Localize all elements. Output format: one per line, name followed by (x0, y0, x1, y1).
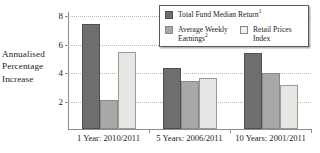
category-labels: 1 Year: 2010/20115 Years: 2006/201110 Ye… (68, 133, 311, 149)
chart-legend: Total Fund Median Return1 Average Weekly… (159, 5, 309, 47)
y-tick-label-8: 8 (59, 11, 64, 21)
y-tick-mark-8 (65, 16, 68, 17)
x-tick-mark (311, 129, 312, 133)
legend-swatch-total-fund-median-return (165, 11, 173, 19)
bar (100, 100, 118, 129)
x-axis-category-label: 1 Year: 2010/2011 (77, 133, 140, 143)
bar (262, 73, 280, 129)
legend-swatch-average-weekly-earnings (165, 26, 173, 34)
legend-label-total-fund-median-return: Total Fund Median Return1 (178, 10, 261, 19)
bar (163, 68, 181, 129)
legend-item-average-weekly-earnings[interactable]: Average Weekly Earnings2 (165, 25, 228, 43)
y-axis-caption-line-1: Annualised (2, 48, 56, 60)
y-tick-label-4: 4 (59, 68, 64, 78)
y-tick-mark-6 (65, 45, 68, 46)
legend-label-retail-prices-index: Retail Prices Index (253, 25, 292, 43)
y-axis-caption: Annualised Percentage Increase (2, 48, 56, 85)
y-axis-caption-line-2: Percentage (2, 60, 56, 72)
legend-swatch-retail-prices-index (240, 26, 248, 34)
bar (181, 81, 199, 129)
y-axis-caption-line-3: Increase (2, 73, 56, 85)
x-axis-category-label: 5 Years: 2006/2011 (156, 133, 222, 143)
y-tick-mark-2 (65, 102, 68, 103)
y-tick-mark-4 (65, 73, 68, 74)
bar (199, 78, 217, 129)
legend-item-total-fund-median-return[interactable]: Total Fund Median Return1 (165, 10, 261, 19)
legend-label-average-weekly-earnings: Average Weekly Earnings2 (178, 25, 228, 43)
bar (82, 24, 100, 129)
y-tick-label-2: 2 (59, 97, 64, 107)
bar (280, 85, 298, 129)
bar (244, 53, 262, 129)
x-axis-category-label: 10 Years: 2001/2011 (235, 133, 306, 143)
bar (118, 52, 136, 129)
legend-item-retail-prices-index[interactable]: Retail Prices Index (240, 25, 292, 43)
y-tick-label-6: 6 (59, 40, 64, 50)
bar-chart: Annualised Percentage Increase 2468 1 Ye… (0, 0, 320, 153)
